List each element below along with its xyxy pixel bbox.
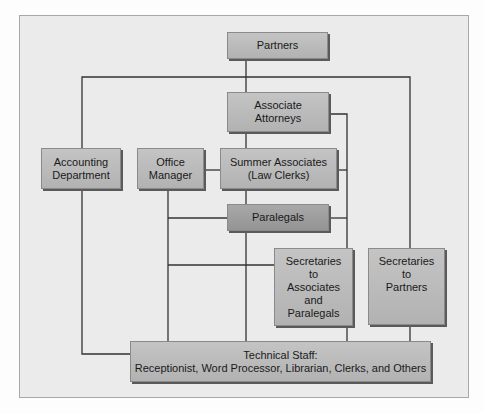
node-summer-associates: Summer Associates (Law Clerks) xyxy=(220,148,337,189)
node-label: Office Manager xyxy=(149,156,192,182)
node-label: Accounting Department xyxy=(52,156,109,182)
node-partners: Partners xyxy=(227,32,328,59)
node-label: Partners xyxy=(257,39,299,52)
node-associate-attorneys: Associate Attorneys xyxy=(227,92,329,132)
node-label: Secretaries to Associates and Paralegals xyxy=(286,255,342,320)
node-label: Paralegals xyxy=(252,211,304,224)
node-label: Associate Attorneys xyxy=(254,99,302,125)
node-technical-staff: Technical Staff: Receptionist, Word Proc… xyxy=(130,341,431,382)
node-paralegals: Paralegals xyxy=(227,204,329,231)
node-label: Summer Associates (Law Clerks) xyxy=(230,156,327,182)
node-accounting-department: Accounting Department xyxy=(41,148,121,189)
node-secretaries-to-partners: Secretaries to Partners xyxy=(368,248,445,325)
node-secretaries-to-associates: Secretaries to Associates and Paralegals xyxy=(274,248,353,326)
node-office-manager: Office Manager xyxy=(137,148,204,189)
node-label: Secretaries to Partners xyxy=(379,255,435,294)
node-label: Technical Staff: Receptionist, Word Proc… xyxy=(135,349,426,375)
